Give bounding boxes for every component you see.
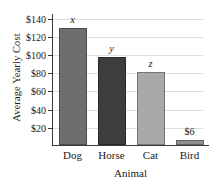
y-tick-label: $40 [31, 104, 46, 115]
bar-horse [98, 57, 126, 145]
x-category-label-cat: Cat [143, 149, 158, 161]
bar-value-label-bird: $6 [185, 126, 195, 137]
bar-slot-dog: x [53, 14, 92, 145]
tick-mark [48, 19, 52, 20]
x-axis-line [52, 145, 209, 146]
x-axis-category-labels: DogHorseCatBird [53, 149, 209, 165]
tick-mark [48, 110, 52, 111]
tick-mark [48, 55, 52, 56]
tick-mark [48, 73, 52, 74]
bars-group: xyz$6 [53, 14, 209, 145]
x-category-label-bird: Bird [180, 149, 200, 161]
bar-value-label-dog: x [70, 14, 75, 25]
y-tick-label: $80 [31, 68, 46, 79]
plot-area: $20$40$60$80$100$120$140 xyz$6 [52, 14, 209, 146]
bar-chart: Average Yearly Cost $20$40$60$80$100$120… [0, 0, 217, 187]
y-tick-label: $100 [26, 49, 46, 60]
y-tick-label: $120 [26, 31, 46, 42]
x-category-label-dog: Dog [63, 149, 82, 161]
tick-mark [48, 128, 52, 129]
x-category-label-horse: Horse [98, 149, 124, 161]
bar-cat [137, 72, 165, 145]
y-tick-label: $140 [26, 13, 46, 24]
y-tick-label: $60 [31, 86, 46, 97]
bar-slot-bird: $6 [170, 14, 209, 145]
tick-mark [48, 37, 52, 38]
tick-mark [48, 91, 52, 92]
bar-slot-cat: z [131, 14, 170, 145]
bar-slot-horse: y [92, 14, 131, 145]
bar-dog [59, 28, 87, 145]
bar-value-label-horse: y [109, 43, 114, 54]
x-axis-title: Animal [52, 167, 209, 179]
y-tick-label: $20 [31, 122, 46, 133]
bar-value-label-cat: z [148, 58, 152, 69]
y-axis-title: Average Yearly Cost [11, 13, 22, 143]
bar-bird [176, 140, 204, 145]
